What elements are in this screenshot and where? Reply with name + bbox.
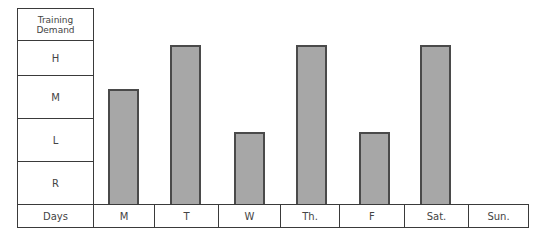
bar-thu xyxy=(296,45,327,204)
day-label: Sun. xyxy=(487,211,509,222)
x-axis-header: Days xyxy=(17,204,94,228)
day-cell-wed: W xyxy=(218,204,281,228)
bar-fri xyxy=(359,132,390,204)
y-level-medium: M xyxy=(17,75,94,119)
y-level-low-label: L xyxy=(53,135,59,146)
y-axis-header-line1: Training xyxy=(38,15,74,25)
bar-mon xyxy=(108,89,139,204)
day-label: W xyxy=(245,211,255,222)
bar-sat xyxy=(420,45,451,204)
day-label: M xyxy=(120,211,129,222)
day-label: F xyxy=(369,211,375,222)
day-label: Th. xyxy=(302,211,318,222)
y-level-rest: R xyxy=(17,161,94,205)
day-cell-mon: M xyxy=(93,204,155,228)
day-label: T xyxy=(183,211,189,222)
y-level-low: L xyxy=(17,118,94,162)
day-cell-sat: Sat. xyxy=(404,204,469,228)
day-cell-thu: Th. xyxy=(280,204,340,228)
day-cell-sun: Sun. xyxy=(468,204,529,228)
y-level-rest-label: R xyxy=(52,178,59,189)
day-cell-tue: T xyxy=(154,204,219,228)
bar-tue xyxy=(170,45,201,204)
y-axis-header-line2: Demand xyxy=(36,25,74,35)
y-level-high-label: H xyxy=(52,53,60,64)
y-axis-header: Training Demand xyxy=(17,8,94,41)
y-level-high: H xyxy=(17,40,94,76)
bar-wed xyxy=(234,132,265,204)
x-axis-header-label: Days xyxy=(43,211,68,222)
y-level-medium-label: M xyxy=(51,92,60,103)
day-cell-fri: F xyxy=(339,204,405,228)
day-label: Sat. xyxy=(427,211,447,222)
